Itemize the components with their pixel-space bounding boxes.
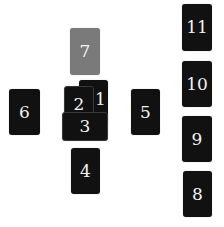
card-8[interactable]: 8 xyxy=(183,171,212,217)
card-9[interactable]: 9 xyxy=(182,116,212,162)
card-3[interactable]: 3 xyxy=(62,112,108,141)
card-7-label: 7 xyxy=(80,43,91,60)
card-2-label: 2 xyxy=(74,96,85,113)
card-11-label: 11 xyxy=(186,19,208,36)
card-4-label: 4 xyxy=(80,163,91,180)
card-10[interactable]: 10 xyxy=(182,61,212,107)
card-1-label: 1 xyxy=(95,91,106,108)
card-11[interactable]: 11 xyxy=(182,4,212,51)
card-5[interactable]: 5 xyxy=(131,89,160,135)
card-8-label: 8 xyxy=(192,186,203,203)
card-3-label: 3 xyxy=(80,118,91,135)
card-6[interactable]: 6 xyxy=(9,89,40,135)
card-9-label: 9 xyxy=(192,131,203,148)
card-5-label: 5 xyxy=(140,104,151,121)
card-10-label: 10 xyxy=(186,76,208,93)
card-6-label: 6 xyxy=(19,104,30,121)
card-7[interactable]: 7 xyxy=(70,28,100,75)
card-4[interactable]: 4 xyxy=(71,148,100,194)
